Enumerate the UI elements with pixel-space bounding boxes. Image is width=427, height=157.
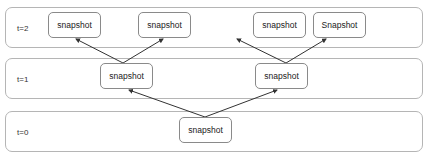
lane-t1: t=1 [5,58,423,99]
snapshot-node-t2-2: snapshot [138,12,191,38]
snapshot-node-label: snapshot [57,20,92,30]
snapshot-node-t2-4: Snapshot [313,12,366,38]
snapshot-node-label: snapshot [109,71,144,81]
snapshot-node-label: snapshot [188,125,223,135]
snapshot-node-label: snapshot [147,20,182,30]
snapshot-node-t2-3: snapshot [253,12,306,38]
lane-label-t0: t=0 [17,127,28,136]
lane-label-t2: t=2 [17,23,28,32]
lane-label-t1: t=1 [17,74,28,83]
snapshot-node-label: Snapshot [322,20,358,30]
snapshot-node-t1-1: snapshot [100,63,153,89]
snapshot-node-t0-1: snapshot [179,117,232,143]
snapshot-node-t1-2: snapshot [255,63,308,89]
snapshot-node-t2-1: snapshot [48,12,101,38]
snapshot-node-label: snapshot [262,20,297,30]
snapshot-node-label: snapshot [264,71,299,81]
